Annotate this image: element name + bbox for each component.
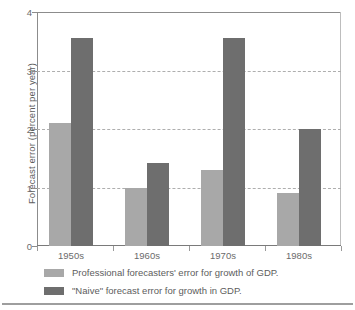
bar-chart-figure: Forecast error (percent per year) 01234 … [0,0,355,310]
legend-label: "Naive" forecast error for growth in GDP… [72,285,242,296]
bar [201,170,223,246]
y-axis-tick-label: 1 [0,182,32,193]
legend-item: "Naive" forecast error for growth in GDP… [44,283,344,298]
bar-group [201,12,245,246]
bar-group [277,12,321,246]
y-axis-tick-label: 2 [0,124,32,135]
bar [299,129,321,246]
bar [223,38,245,246]
legend-label: Professional forecasters' error for grow… [72,267,279,278]
y-axis-tick-label: 0 [0,241,32,252]
bar [49,123,71,246]
legend-item: Professional forecasters' error for grow… [44,265,344,280]
x-axis-tick-label: 1960s [134,250,160,261]
chart-legend: Professional forecasters' error for grow… [44,265,344,301]
bar [277,193,299,246]
bar [71,38,93,246]
bar-groups [37,12,341,246]
bar-group [125,12,169,246]
bar-group [49,12,93,246]
bar [125,188,147,247]
x-axis-labels: 1950s1960s1970s1980s [37,250,341,264]
bar [147,163,169,246]
x-axis-tick-label: 1980s [286,250,312,261]
x-axis-tick-label: 1950s [58,250,84,261]
plot-area: 01234 [37,12,341,246]
x-axis-tick-label: 1970s [210,250,236,261]
legend-swatch [44,287,64,295]
legend-swatch [44,269,64,277]
y-axis-tick-label: 4 [0,7,32,18]
x-axis-tick-mark [341,246,342,251]
bottom-divider [2,303,353,305]
y-axis-tick-label: 3 [0,65,32,76]
